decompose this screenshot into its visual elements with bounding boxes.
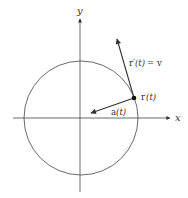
unit-circle-diagram: y x r′(t)= v r(t) a(t) bbox=[0, 0, 188, 198]
acceleration-label: a(t) bbox=[111, 107, 126, 117]
velocity-label: r′(t)= v bbox=[129, 58, 162, 68]
x-axis-label: x bbox=[175, 112, 181, 123]
y-axis-label: y bbox=[76, 5, 83, 16]
point-r-of-t bbox=[132, 96, 137, 101]
velocity-vector bbox=[117, 39, 134, 98]
point-label: r(t) bbox=[141, 92, 156, 102]
